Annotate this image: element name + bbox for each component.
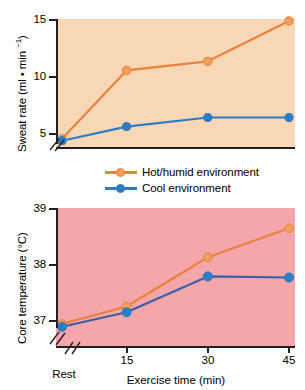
data-point-hot-humid-temp-45 bbox=[285, 224, 294, 233]
series-line-cool-temp bbox=[62, 276, 289, 326]
series-line-cool-sweat bbox=[62, 118, 289, 141]
data-point-cool-temp-45 bbox=[284, 273, 293, 282]
x-tick-45 bbox=[288, 347, 290, 353]
data-point-hot-humid-sweat-15 bbox=[123, 66, 131, 74]
y-tick-label-sweat-5: 5 bbox=[24, 128, 46, 140]
x-axis-break-core-temperature bbox=[62, 339, 86, 357]
y-axis-title-core-temperature: Core temperature (°C) bbox=[16, 232, 28, 344]
x-axis-title-core-temperature: Exercise time (min) bbox=[76, 374, 276, 386]
x-tick-label-15: 15 bbox=[107, 355, 147, 367]
plot-area-sweat-rate bbox=[56, 19, 295, 148]
legend-marker-cool bbox=[105, 182, 137, 194]
data-point-hot-humid-sweat-45 bbox=[285, 17, 293, 25]
y-axis-title-sweat-rate-sup: −1 bbox=[14, 39, 23, 48]
x-tick-15 bbox=[126, 347, 128, 353]
y-tick-label-temp-37: 37 bbox=[24, 315, 46, 327]
plot-area-core-temperature bbox=[56, 208, 295, 346]
y-tick-label-sweat-15: 15 bbox=[24, 14, 46, 26]
y-tick-label-sweat-10: 10 bbox=[24, 71, 46, 83]
y-axis-break-sweat-rate bbox=[48, 134, 68, 152]
y-axis-title-sweat-rate-tail: ) bbox=[16, 35, 28, 39]
y-tick-temp-39 bbox=[49, 208, 56, 210]
x-axis-line-sweat-rate bbox=[56, 147, 295, 149]
y-tick-temp-38 bbox=[49, 264, 56, 266]
legend-label-cool: Cool environment bbox=[142, 182, 231, 194]
panel-core-temperature: Core temperature (°C) 39 38 37 bbox=[0, 196, 305, 390]
panel-sweat-rate: Sweat rate (ml • min −1) 15 10 5 bbox=[0, 0, 305, 160]
y-tick-sweat-10 bbox=[49, 76, 56, 78]
data-point-cool-sweat-15 bbox=[123, 123, 131, 131]
legend-item-hot-humid[interactable]: Hot/humid environment bbox=[105, 165, 259, 179]
series-layer-sweat-rate bbox=[56, 19, 295, 148]
data-point-hot-humid-temp-30 bbox=[204, 253, 213, 262]
figure-root: Sweat rate (ml • min −1) 15 10 5 bbox=[0, 0, 305, 390]
chart-legend: Hot/humid environment Cool environment bbox=[105, 165, 305, 197]
data-point-cool-sweat-30 bbox=[204, 113, 212, 121]
data-point-cool-temp-30 bbox=[203, 272, 212, 281]
data-point-cool-temp-15 bbox=[122, 308, 131, 317]
x-axis-line-core-temperature bbox=[56, 346, 295, 348]
legend-label-hot-humid: Hot/humid environment bbox=[142, 166, 259, 178]
series-layer-core-temperature bbox=[56, 208, 295, 346]
y-axis-line-sweat-rate bbox=[56, 19, 58, 144]
y-tick-label-temp-38: 38 bbox=[24, 259, 46, 271]
y-tick-temp-37 bbox=[49, 320, 56, 322]
x-tick-30 bbox=[207, 347, 209, 353]
legend-item-cool[interactable]: Cool environment bbox=[105, 181, 231, 195]
x-tick-label-30: 30 bbox=[188, 355, 228, 367]
data-point-hot-humid-sweat-30 bbox=[204, 57, 212, 65]
y-tick-label-temp-39: 39 bbox=[24, 203, 46, 215]
legend-marker-hot-humid bbox=[105, 166, 137, 178]
data-point-cool-sweat-45 bbox=[285, 113, 293, 121]
x-tick-label-45: 45 bbox=[269, 355, 305, 367]
y-axis-line-core-temperature bbox=[56, 208, 58, 328]
y-tick-sweat-15 bbox=[49, 19, 56, 21]
